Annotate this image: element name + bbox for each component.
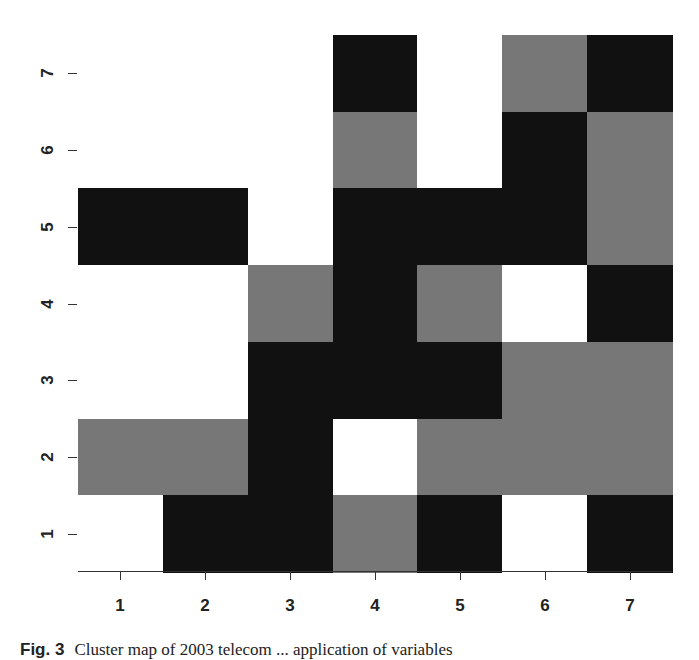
y-tick-mark: [68, 227, 77, 228]
heatmap-cell: [502, 35, 588, 113]
heatmap-cell: [78, 35, 164, 113]
y-tick-label: 1: [36, 522, 60, 546]
heatmap-cell: [163, 188, 249, 266]
heatmap-cell: [248, 112, 334, 190]
y-tick-label: 6: [36, 138, 60, 162]
heatmap-cell: [333, 112, 419, 190]
heatmap-cell: [333, 35, 419, 113]
heatmap-cell: [248, 419, 334, 497]
x-tick-label: 4: [360, 596, 390, 616]
heatmap-cell: [333, 265, 419, 343]
y-tick-mark: [68, 150, 77, 151]
heatmap-cell: [502, 112, 588, 190]
x-tick-mark: [630, 572, 631, 580]
heatmap-cell: [78, 495, 164, 573]
heatmap-cell: [417, 342, 503, 420]
heatmap-cell: [163, 342, 249, 420]
heatmap-cell: [502, 342, 588, 420]
heatmap-cell: [78, 188, 164, 266]
heatmap-cell: [333, 188, 419, 266]
x-tick-mark: [545, 572, 546, 580]
heatmap-cell: [248, 35, 334, 113]
heatmap-cell: [78, 342, 164, 420]
heatmap-plot-area: [78, 35, 672, 572]
heatmap-cell: [502, 188, 588, 266]
heatmap-cell: [587, 188, 673, 266]
heatmap-cell: [587, 265, 673, 343]
x-tick-label: 5: [445, 596, 475, 616]
heatmap-cell: [587, 419, 673, 497]
figure-caption: Fig. 3Cluster map of 2003 telecom ... ap…: [20, 640, 699, 660]
heatmap-cell: [502, 265, 588, 343]
x-tick-label: 1: [105, 596, 135, 616]
heatmap-cell: [78, 265, 164, 343]
heatmap-cell: [417, 495, 503, 573]
x-tick-mark: [205, 572, 206, 580]
x-tick-label: 2: [190, 596, 220, 616]
x-tick-label: 3: [275, 596, 305, 616]
x-tick-mark: [290, 572, 291, 580]
heatmap-cell: [248, 188, 334, 266]
x-tick-label: 7: [615, 596, 645, 616]
heatmap-cell: [163, 265, 249, 343]
x-tick-mark: [375, 572, 376, 580]
y-tick-label: 4: [36, 292, 60, 316]
heatmap-cell: [417, 419, 503, 497]
y-tick-label: 7: [36, 61, 60, 85]
heatmap-cell: [333, 342, 419, 420]
y-tick-label: 2: [36, 445, 60, 469]
heatmap-cell: [163, 495, 249, 573]
heatmap-cell: [417, 35, 503, 113]
x-tick-label: 6: [530, 596, 560, 616]
heatmap-cell: [163, 35, 249, 113]
y-tick-label: 3: [36, 368, 60, 392]
x-tick-mark: [460, 572, 461, 580]
heatmap-cell: [333, 419, 419, 497]
heatmap-cell: [502, 419, 588, 497]
heatmap-cell: [78, 112, 164, 190]
heatmap-cell: [417, 188, 503, 266]
y-tick-mark: [68, 73, 77, 74]
heatmap-cell: [248, 495, 334, 573]
heatmap-cell: [587, 35, 673, 113]
x-tick-mark: [120, 572, 121, 580]
heatmap-cell: [248, 265, 334, 343]
caption-text: Cluster map of 2003 telecom ... applicat…: [74, 640, 452, 659]
y-tick-mark: [68, 380, 77, 381]
y-tick-mark: [68, 534, 77, 535]
heatmap-cell: [417, 265, 503, 343]
heatmap-cell: [587, 112, 673, 190]
heatmap-cell: [78, 419, 164, 497]
y-tick-label: 5: [36, 215, 60, 239]
heatmap-cell: [163, 112, 249, 190]
heatmap-cell: [502, 495, 588, 573]
heatmap-cell: [417, 112, 503, 190]
heatmap-cell: [587, 342, 673, 420]
figure-label: Fig. 3: [20, 640, 64, 659]
heatmap-cell: [333, 495, 419, 573]
heatmap-cell: [587, 495, 673, 573]
heatmap-cell: [248, 342, 334, 420]
heatmap-cell: [163, 419, 249, 497]
y-tick-mark: [68, 457, 77, 458]
y-tick-mark: [68, 304, 77, 305]
